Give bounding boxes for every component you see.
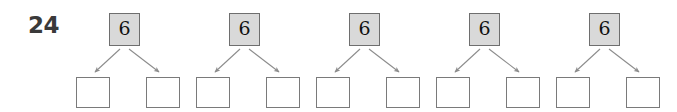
part-box-left[interactable] — [436, 77, 470, 108]
part-box-left[interactable] — [76, 77, 110, 108]
part-box-right[interactable] — [506, 77, 540, 108]
part-box-right[interactable] — [626, 77, 660, 108]
whole-box: 6 — [589, 13, 620, 46]
part-box-left[interactable] — [316, 77, 350, 108]
whole-value: 6 — [358, 19, 370, 38]
whole-box: 6 — [349, 13, 380, 46]
whole-value: 6 — [238, 19, 250, 38]
whole-value: 6 — [478, 19, 490, 38]
number-bond-2: 6 — [188, 0, 308, 112]
part-box-right[interactable] — [266, 77, 300, 108]
part-box-right[interactable] — [386, 77, 420, 108]
number-bond-5: 6 — [548, 0, 668, 112]
whole-box: 6 — [109, 13, 140, 46]
whole-value: 6 — [598, 19, 610, 38]
whole-box: 6 — [229, 13, 260, 46]
whole-box: 6 — [469, 13, 500, 46]
number-bond-3: 6 — [308, 0, 428, 112]
part-box-left[interactable] — [196, 77, 230, 108]
part-box-left[interactable] — [556, 77, 590, 108]
worksheet-problem-row: 24 6 6 — [0, 0, 677, 112]
number-bond-4: 6 — [428, 0, 548, 112]
part-box-right[interactable] — [146, 77, 180, 108]
number-bond-1: 6 — [68, 0, 188, 112]
whole-value: 6 — [118, 19, 130, 38]
